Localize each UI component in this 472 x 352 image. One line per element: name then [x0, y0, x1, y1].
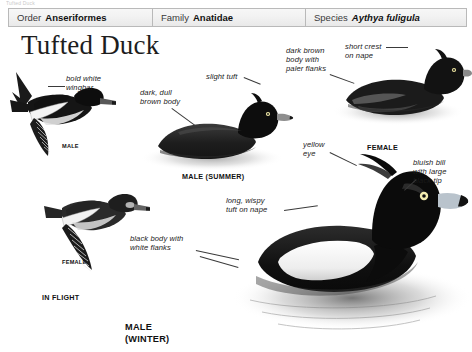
annotation-dark-dull-brown-body: dark, dull brown body: [140, 88, 180, 106]
caption-female-in-flight: FEMALE: [62, 259, 87, 266]
annotation-dark-brown-body-paler-flanks: dark brown body with paler flanks: [286, 46, 326, 74]
caption-male-in-flight: MALE: [62, 143, 79, 150]
leader-bold-white-wingbar: [48, 86, 65, 87]
caption-female-swimming: FEMALE: [367, 143, 398, 152]
leader-short-crest-on-nape: [386, 47, 408, 48]
annotation-short-crest-on-nape: short crest on nape: [345, 42, 382, 60]
annotation-bluish-bill-black-tip: bluish bill with large black tip: [413, 158, 447, 186]
annotation-slight-tuft: slight tuft: [206, 72, 238, 81]
caption-male-summer: MALE (SUMMER): [182, 172, 244, 181]
caption-male-winter: MALE (WINTER): [125, 322, 169, 345]
annotation-black-body-white-flanks: black body with white flanks: [130, 234, 183, 252]
field-guide-page: Tufted Duck Order Anseriformes Family An…: [0, 0, 472, 352]
annotation-bold-white-wingbar: bold white wingbar: [66, 74, 101, 92]
female-in-flight-figure: [44, 194, 150, 271]
caption-in-flight: IN FLIGHT: [42, 293, 79, 302]
annotation-yellow-eye: yellow eye: [303, 140, 325, 158]
annotation-long-wispy-tuft-on-nape: long, wispy tuft on nape: [226, 196, 267, 214]
